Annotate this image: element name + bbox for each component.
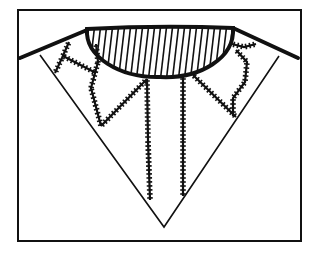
stitch-lines xyxy=(54,42,256,200)
left-cross-stitch xyxy=(63,54,96,74)
center-right-stitch xyxy=(180,77,186,196)
v-yoke-edges xyxy=(40,55,279,227)
right-diagonal-stitch xyxy=(192,74,236,117)
right-shoulder-stitch xyxy=(232,42,256,49)
yoke-diagram xyxy=(0,0,327,253)
frame-border xyxy=(18,10,301,241)
left-diagonal-stitch xyxy=(100,79,147,127)
left-shoulder-line xyxy=(20,30,87,58)
right-curved-stitch xyxy=(230,50,249,116)
center-left-stitch xyxy=(144,79,152,200)
right-shoulder-line xyxy=(233,28,298,58)
